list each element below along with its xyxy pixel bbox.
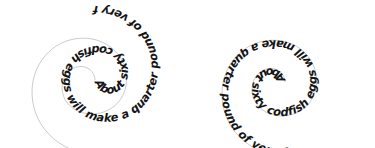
spiral-right-svg: About sixty codfish eggs will make a qua… [187,0,375,148]
spiral-text-left: About sixty codfish eggs will make a qua… [0,0,188,148]
spiral-right-textpath: About sixty codfish eggs will make a qua… [183,0,320,148]
spiral-left-textpath: About sixty codfish eggs will make a qua… [60,3,194,148]
spiral-typography-canvas: About sixty codfish eggs will make a qua… [0,0,375,148]
spiral-left-phrase: About sixty codfish eggs will make a qua… [60,3,194,148]
spiral-text-right: About sixty codfish eggs will make a qua… [187,0,375,148]
spiral-left-rotation-group: About sixty codfish eggs will make a qua… [60,3,194,148]
spiral-right-phrase: About sixty codfish eggs will make a qua… [183,0,320,148]
spiral-left-svg: About sixty codfish eggs will make a qua… [0,0,188,148]
